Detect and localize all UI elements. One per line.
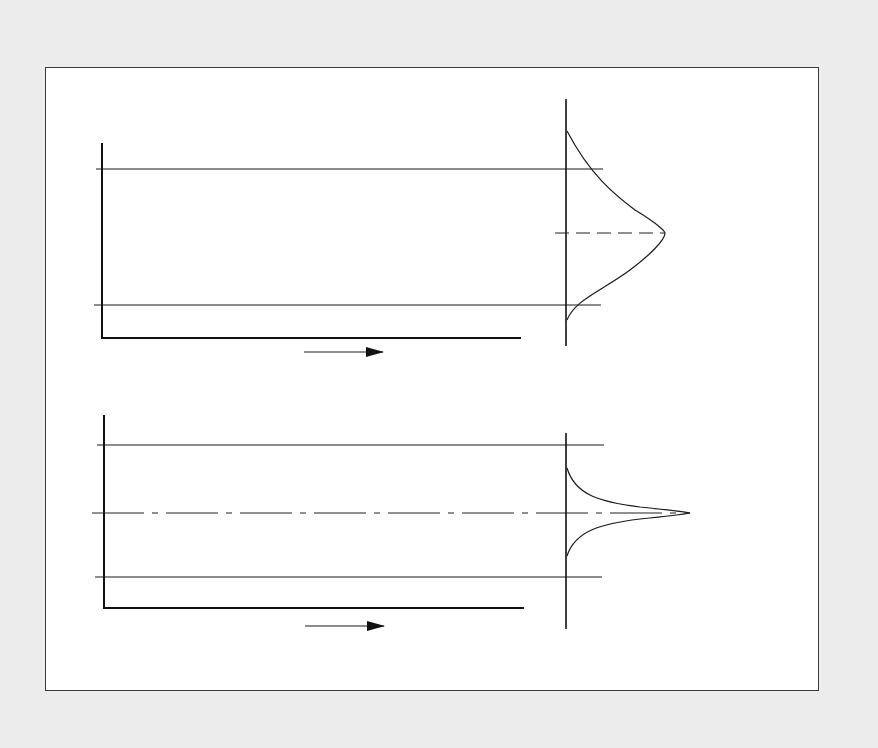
wide-normal-curve — [567, 131, 665, 320]
bottom-chart — [0, 0, 690, 629]
figure-stage — [0, 0, 878, 748]
top-chart — [0, 0, 665, 352]
narrow-peaked-curve — [567, 468, 690, 556]
spc-diagram — [0, 0, 878, 748]
